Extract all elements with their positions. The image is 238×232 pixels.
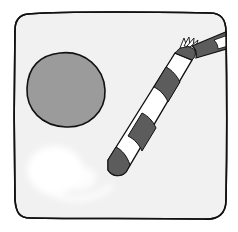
round-object: [27, 53, 105, 127]
illustration-canvas: [0, 0, 238, 232]
drink-illustration: [0, 0, 238, 232]
